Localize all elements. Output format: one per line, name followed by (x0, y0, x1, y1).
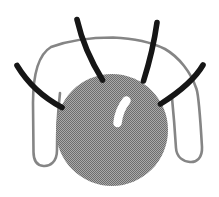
clipart-canvas (0, 0, 219, 197)
bristle-right (161, 65, 204, 104)
clipart-figure (0, 0, 219, 197)
sphere (56, 74, 168, 186)
bristle-top-left (77, 20, 103, 81)
bristle-upper-left (17, 66, 62, 108)
bristle-top-right (144, 23, 158, 82)
